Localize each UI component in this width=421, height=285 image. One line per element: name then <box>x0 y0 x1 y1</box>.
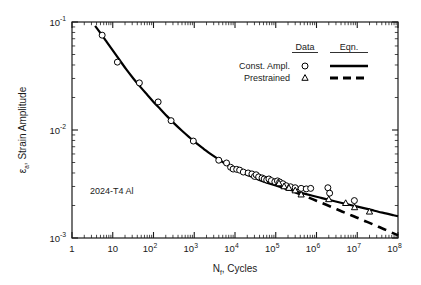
legend-label-const-ampl: Const. Ampl. <box>239 61 290 71</box>
data-point-circle <box>308 185 314 191</box>
data-point-circle <box>114 59 120 65</box>
x-tick-label: 1 <box>69 243 74 254</box>
legend-marker-circle <box>302 63 308 69</box>
data-point-circle <box>190 138 196 144</box>
annotation-group: 2024-T4 Al <box>90 186 134 196</box>
fatigue-strain-life-chart: 110102103104105106107108 10-310-210-1 Da… <box>0 0 421 285</box>
x-tick-label: 10 <box>107 243 118 254</box>
data-point-circle <box>327 190 333 196</box>
legend-header-eqn: Eqn. <box>340 42 359 52</box>
x-axis-title: Nf, Cycles <box>213 263 258 276</box>
data-point-circle <box>168 118 174 124</box>
data-point-circle <box>99 32 105 38</box>
y-axis-title: εa, Strain Amplitude <box>17 86 30 173</box>
material-annotation: 2024-T4 Al <box>90 186 134 196</box>
figure-container: 110102103104105106107108 10-310-210-1 Da… <box>0 0 421 285</box>
data-point-circle <box>155 99 161 105</box>
data-point-circle <box>216 157 222 163</box>
legend-label-prestrained: Prestrained <box>244 73 290 83</box>
data-point-circle <box>351 198 357 204</box>
data-point-circle <box>136 80 142 86</box>
legend-header-data: Data <box>295 42 314 52</box>
